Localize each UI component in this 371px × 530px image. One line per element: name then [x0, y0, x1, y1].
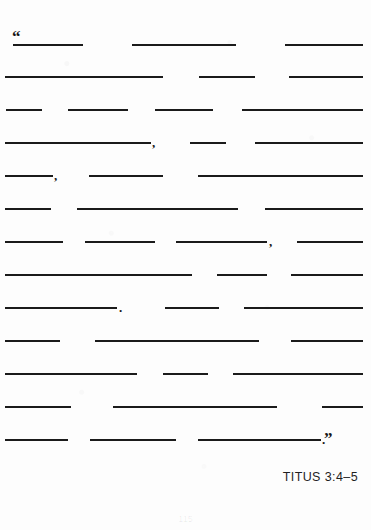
blank-line-row: .: [0, 293, 371, 319]
blank-line-row: [0, 260, 371, 286]
fill-in-blank[interactable]: [5, 307, 117, 309]
fill-in-blank[interactable]: [13, 44, 83, 46]
fill-in-blank[interactable]: [5, 373, 137, 375]
period-mark: .: [119, 301, 122, 314]
fill-in-blank[interactable]: [165, 307, 219, 309]
fill-in-blank[interactable]: [265, 208, 363, 210]
blank-line-row: ,: [0, 161, 371, 187]
fill-in-blank[interactable]: [190, 142, 226, 144]
blank-line-row: [0, 326, 371, 352]
fill-in-blank[interactable]: [242, 109, 363, 111]
fill-in-blank[interactable]: [5, 439, 68, 441]
fill-in-blank[interactable]: [90, 439, 176, 441]
scripture-citation: TITUS 3:4–5: [283, 470, 358, 484]
fill-in-blank[interactable]: [255, 142, 363, 144]
scripture-page: “ ,,,.. ” TITUS 3:4–5 115: [0, 0, 371, 530]
fill-in-blank[interactable]: [289, 76, 363, 78]
fill-in-blank[interactable]: [198, 439, 321, 441]
comma-mark: ,: [54, 169, 57, 182]
blank-line-row: [0, 95, 371, 121]
fill-in-blank[interactable]: [77, 208, 238, 210]
closing-quotation-mark: ”: [324, 430, 333, 447]
fill-in-blank[interactable]: [244, 307, 363, 309]
fill-in-blank[interactable]: [322, 406, 363, 408]
fill-in-blank[interactable]: [155, 109, 213, 111]
blank-line-row: [0, 359, 371, 385]
fill-in-blank[interactable]: [132, 44, 236, 46]
fill-in-blank[interactable]: [198, 175, 363, 177]
fill-in-blank[interactable]: [163, 373, 208, 375]
fill-in-blank[interactable]: [297, 241, 363, 243]
blank-line-row: [0, 194, 371, 220]
comma-mark: ,: [269, 235, 272, 248]
blank-line-row: ,: [0, 227, 371, 253]
fill-in-blank[interactable]: [95, 340, 259, 342]
fill-in-blank[interactable]: [233, 373, 363, 375]
fill-in-blank[interactable]: [5, 274, 192, 276]
fill-in-blank[interactable]: [113, 406, 277, 408]
fill-in-blank[interactable]: [5, 142, 151, 144]
blank-line-row: [0, 62, 371, 88]
blank-line-row: [0, 392, 371, 418]
blank-line-row: [0, 30, 371, 56]
blank-line-row: .: [0, 425, 371, 451]
fill-in-blank[interactable]: [5, 241, 63, 243]
fill-in-blank[interactable]: [85, 241, 155, 243]
fill-in-blank[interactable]: [199, 76, 255, 78]
fill-in-blank[interactable]: [285, 44, 363, 46]
fill-in-blank[interactable]: [291, 340, 363, 342]
fill-in-blank[interactable]: [5, 406, 71, 408]
comma-mark: ,: [152, 136, 155, 149]
fill-in-blank[interactable]: [291, 274, 363, 276]
fill-in-blank[interactable]: [89, 175, 163, 177]
fill-in-blank[interactable]: [176, 241, 267, 243]
fill-in-blank[interactable]: [5, 208, 51, 210]
fill-in-blank[interactable]: [5, 76, 163, 78]
fill-in-blank[interactable]: [217, 274, 267, 276]
fill-in-blank[interactable]: [68, 109, 128, 111]
page-number: 115: [0, 514, 371, 524]
fill-in-blank[interactable]: [5, 175, 53, 177]
fill-in-blank[interactable]: [6, 109, 42, 111]
blank-line-row: ,: [0, 128, 371, 154]
fill-in-blank[interactable]: [5, 340, 60, 342]
